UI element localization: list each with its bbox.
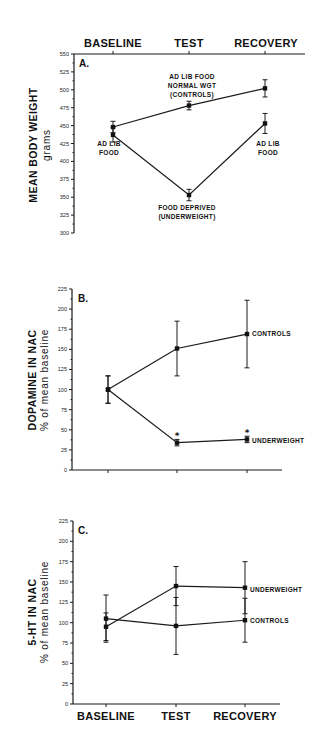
y-tick-label: 175 — [59, 559, 68, 565]
y-tick-label: 425 — [60, 141, 69, 147]
panel-b-axes: 0255075100125150175200225 — [58, 286, 282, 473]
data-point-marker — [187, 103, 191, 107]
figure: 300325350375400425450475500525550 BASELI… — [0, 0, 326, 756]
data-point-marker — [263, 86, 267, 90]
annotation-controls-line2: NORMAL WGT — [168, 82, 216, 89]
data-point-marker — [243, 618, 247, 622]
data-point-marker — [104, 616, 108, 620]
data-point-marker — [174, 584, 178, 588]
y-tick-label: 50 — [61, 427, 67, 433]
panel-a-tag: A. — [79, 58, 89, 69]
significance-star-recovery: * — [245, 428, 250, 438]
y-tick-label: 525 — [60, 69, 69, 75]
y-tick-label: 100 — [59, 620, 68, 626]
legend-label-underweight: UNDERWEIGHT — [250, 586, 302, 593]
y-tick-label: 350 — [60, 194, 69, 200]
data-point-marker — [187, 193, 191, 197]
data-point-marker — [243, 585, 247, 589]
y-tick-label: 375 — [60, 176, 69, 182]
annotation-adlib-recovery-line1: AD LIB — [256, 140, 279, 147]
panel-c-y-label: 5-HT IN NAC — [26, 579, 38, 646]
data-point-marker — [175, 440, 179, 444]
annotation-deprived-line2: (UNDERWEIGHT) — [158, 213, 215, 221]
y-tick-label: 75 — [62, 640, 68, 646]
panel-a-y-label: MEAN BODY WEIGHT — [27, 87, 39, 202]
y-tick-label: 400 — [60, 158, 69, 164]
y-tick-label: 225 — [58, 286, 67, 292]
panel-c-axes: 0255075100125150175200225 — [59, 518, 280, 707]
panel-c-series — [104, 562, 248, 655]
annotation-adlib-recovery-line2: FOOD — [258, 149, 278, 156]
data-point-marker — [245, 332, 249, 336]
y-tick-label: 100 — [58, 387, 67, 393]
y-tick-label: 500 — [60, 87, 69, 93]
annotation-controls-line1: AD LIB FOOD — [169, 73, 215, 80]
y-tick-label: 450 — [60, 123, 69, 129]
legend-label-controls: CONTROLS — [250, 617, 289, 624]
data-point-marker — [106, 387, 110, 391]
panel-b-y-sublabel: % of mean baseline — [39, 329, 50, 431]
y-tick-label: 50 — [62, 660, 68, 666]
y-tick-label: 150 — [59, 579, 68, 585]
panel-a-category-baseline: BASELINE — [84, 37, 142, 49]
y-tick-label: 150 — [58, 346, 67, 352]
panel-b-series — [106, 300, 250, 446]
panel-c-y-sublabel: % of mean baseline — [39, 561, 50, 663]
data-point-marker — [175, 346, 179, 350]
significance-star-test: * — [175, 431, 180, 441]
annotation-deprived-line1: FOOD DEPRIVED — [158, 204, 216, 211]
panel-c: 0255075100125150175200225 C. 5-HT IN NAC… — [26, 518, 302, 722]
y-tick-label: 125 — [59, 599, 68, 605]
y-tick-label: 225 — [59, 518, 68, 524]
data-point-marker — [111, 133, 115, 137]
y-tick-label: 200 — [58, 306, 67, 312]
annotation-adlib-baseline-line2: FOOD — [99, 149, 119, 156]
panel-c-category-recovery: RECOVERY — [213, 710, 277, 722]
panel-a-y-sublabel: grams — [41, 129, 52, 161]
y-tick-label: 200 — [59, 538, 68, 544]
y-tick-label: 25 — [61, 447, 67, 453]
y-tick-label: 175 — [58, 326, 67, 332]
series-line — [113, 123, 265, 195]
y-tick-label: 550 — [60, 51, 69, 57]
y-tick-label: 325 — [60, 212, 69, 218]
y-tick-label: 25 — [62, 681, 68, 687]
y-tick-label: 125 — [58, 366, 67, 372]
data-point-marker — [174, 624, 178, 628]
panel-a: 300325350375400425450475500525550 BASELI… — [27, 37, 305, 236]
panel-b-tag: B. — [78, 293, 88, 304]
data-point-marker — [263, 121, 267, 125]
y-tick-label: 300 — [60, 230, 69, 236]
panel-c-category-test: TEST — [161, 710, 190, 722]
panel-b: 0255075100125150175200225 B. DOPAMINE IN… — [26, 286, 304, 473]
panel-b-y-label: DOPAMINE IN NAC — [26, 330, 38, 431]
y-tick-label: 0 — [64, 467, 67, 473]
y-tick-label: 475 — [60, 105, 69, 111]
y-tick-label: 0 — [65, 701, 68, 707]
legend-label-controls: CONTROLS — [252, 330, 291, 337]
legend-label-underweight: UNDERWEIGHT — [252, 437, 304, 444]
panel-a-category-recovery: RECOVERY — [234, 37, 298, 49]
panel-c-tag: C. — [78, 525, 88, 536]
panel-a-category-test: TEST — [174, 37, 203, 49]
annotation-adlib-baseline-line1: AD LIB — [97, 140, 120, 147]
panel-c-category-baseline: BASELINE — [77, 710, 135, 722]
y-tick-label: 75 — [61, 407, 67, 413]
annotation-controls-line3: (CONTROLS) — [170, 91, 214, 99]
